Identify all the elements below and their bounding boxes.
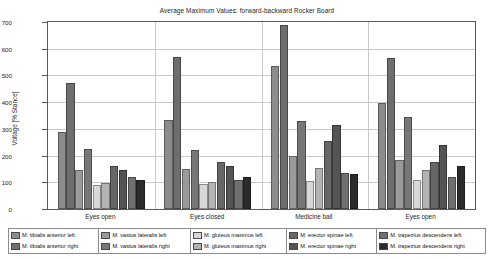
bar bbox=[457, 166, 465, 209]
bar bbox=[128, 177, 136, 209]
x-group-label: Eyes closed bbox=[190, 213, 224, 220]
bar bbox=[332, 125, 340, 209]
y-tick-label: 0 bbox=[9, 206, 12, 213]
legend-swatch-icon bbox=[101, 232, 110, 239]
bar bbox=[84, 149, 92, 209]
legend-item[interactable]: M. trapezius descendens right bbox=[379, 241, 483, 252]
gridline-vertical bbox=[262, 22, 263, 209]
legend-swatch-icon bbox=[193, 232, 202, 239]
legend-item[interactable]: M. trapezius descendens left bbox=[379, 230, 483, 241]
bar bbox=[75, 170, 83, 209]
bar bbox=[199, 184, 207, 209]
bar bbox=[378, 103, 386, 209]
legend-swatch-icon bbox=[11, 232, 20, 239]
bar bbox=[448, 177, 456, 209]
y-tick-label: 100 bbox=[2, 179, 12, 186]
legend-label: M. vastus lateralis left bbox=[112, 232, 166, 239]
legend-item[interactable]: M. erector spinae right bbox=[289, 241, 374, 252]
bar bbox=[422, 170, 430, 209]
legend-item[interactable]: M. gluteus maximus right bbox=[193, 241, 284, 252]
bar bbox=[341, 173, 349, 209]
gridline-vertical bbox=[368, 22, 369, 209]
legend-column: M. erector spinae leftM. erector spinae … bbox=[287, 229, 377, 253]
chart-figure: Average Maximum Values: forward-backward… bbox=[0, 0, 494, 259]
bar bbox=[280, 25, 288, 209]
bar bbox=[289, 156, 297, 209]
bar bbox=[217, 162, 225, 209]
legend-column: M. gluteus maximus leftM. gluteus maximu… bbox=[191, 229, 287, 253]
legend-label: M. trapezius descendens left bbox=[390, 232, 461, 239]
legend-label: M. tibialis anterior right bbox=[22, 243, 78, 250]
bar bbox=[101, 183, 109, 209]
legend-item[interactable]: M. vastus lateralis left bbox=[101, 230, 187, 241]
bar bbox=[191, 150, 199, 209]
legend-label: M. gluteus maximus left bbox=[204, 232, 263, 239]
bar bbox=[395, 160, 403, 209]
legend-swatch-icon bbox=[289, 232, 298, 239]
bar bbox=[404, 117, 412, 209]
bar bbox=[315, 168, 323, 209]
bar bbox=[234, 180, 242, 209]
legend-item[interactable]: M. vastus lateralis right bbox=[101, 241, 187, 252]
bar bbox=[208, 182, 216, 209]
legend-swatch-icon bbox=[289, 243, 298, 250]
chart-legend: M. tibialis anterior leftM. tibialis ant… bbox=[8, 228, 486, 254]
legend-item[interactable]: M. tibialis anterior right bbox=[11, 241, 96, 252]
y-tick-label: 400 bbox=[2, 99, 12, 106]
bar bbox=[243, 177, 251, 209]
bar bbox=[226, 166, 234, 209]
bar bbox=[413, 180, 421, 209]
gridline-vertical bbox=[155, 22, 156, 209]
bar bbox=[119, 170, 127, 209]
bar bbox=[164, 120, 172, 209]
bar bbox=[173, 57, 181, 209]
bar bbox=[306, 181, 314, 209]
x-group-label: Medicine ball bbox=[295, 213, 332, 220]
legend-label: M. gluteus maximus right bbox=[204, 243, 266, 250]
legend-column: M. tibialis anterior leftM. tibialis ant… bbox=[9, 229, 99, 253]
bar bbox=[136, 180, 144, 209]
bar bbox=[324, 141, 332, 209]
legend-swatch-icon bbox=[11, 243, 20, 250]
y-tick-label: 600 bbox=[2, 45, 12, 52]
legend-label: M. tibialis anterior left bbox=[22, 232, 75, 239]
legend-item[interactable]: M. erector spinae left bbox=[289, 230, 374, 241]
bar bbox=[182, 169, 190, 209]
y-tick-label: 200 bbox=[2, 152, 12, 159]
bar bbox=[387, 58, 395, 209]
x-group-label: Eyes open bbox=[406, 213, 436, 220]
legend-column: M. vastus lateralis leftM. vastus latera… bbox=[99, 229, 190, 253]
x-group-label: Eyes open bbox=[85, 213, 115, 220]
legend-label: M. erector spinae right bbox=[300, 243, 356, 250]
bar bbox=[110, 166, 118, 209]
bar bbox=[58, 132, 66, 209]
y-tick-label: 300 bbox=[2, 125, 12, 132]
bar bbox=[93, 185, 101, 209]
bar bbox=[439, 145, 447, 209]
legend-label: M. erector spinae left bbox=[300, 232, 352, 239]
bar bbox=[66, 83, 74, 209]
chart-title: Average Maximum Values: forward-backward… bbox=[0, 7, 494, 14]
legend-swatch-icon bbox=[379, 232, 388, 239]
bar bbox=[430, 162, 438, 209]
legend-label: M. vastus lateralis right bbox=[112, 243, 169, 250]
legend-item[interactable]: M. tibialis anterior left bbox=[11, 230, 96, 241]
legend-swatch-icon bbox=[101, 243, 110, 250]
y-tick-label: 500 bbox=[2, 72, 12, 79]
legend-column: M. trapezius descendens leftM. trapezius… bbox=[377, 229, 485, 253]
legend-item[interactable]: M. gluteus maximus left bbox=[193, 230, 284, 241]
bar bbox=[350, 174, 358, 209]
bar bbox=[271, 66, 279, 209]
plot-area bbox=[47, 21, 476, 210]
bar bbox=[297, 121, 305, 209]
legend-swatch-icon bbox=[379, 243, 388, 250]
legend-label: M. trapezius descendens right bbox=[390, 243, 465, 250]
legend-swatch-icon bbox=[193, 243, 202, 250]
y-tick-label: 700 bbox=[2, 19, 12, 26]
